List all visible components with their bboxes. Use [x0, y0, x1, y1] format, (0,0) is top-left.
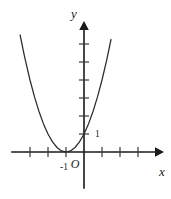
x-axis-label: x: [158, 164, 165, 179]
x-tick-label-minus-one: -1: [60, 162, 68, 172]
y-axis-label: y: [69, 6, 77, 21]
coordinate-plot: x y O -1 1: [0, 0, 171, 199]
origin-label: O: [71, 157, 80, 171]
y-tick-label-one: 1: [95, 129, 100, 139]
figure-container: x y O -1 1: [0, 0, 171, 199]
